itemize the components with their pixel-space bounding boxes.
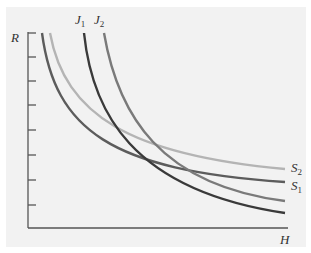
axes xyxy=(28,32,288,228)
y-axis-label: R xyxy=(10,30,19,45)
label-s1: S1 xyxy=(291,178,302,195)
curve-s2 xyxy=(50,33,285,169)
label-j2: J2 xyxy=(94,12,104,29)
label-j1: J1 xyxy=(75,12,85,29)
curve-j2 xyxy=(104,33,285,201)
curve-s1 xyxy=(42,33,285,182)
x-axis-label: H xyxy=(279,232,290,247)
label-s2: S2 xyxy=(291,160,302,177)
y-axis-ticks xyxy=(28,33,36,205)
indifference-curves-diagram: R H J1 J2 S2 S1 xyxy=(0,0,311,253)
curve-j1 xyxy=(84,33,285,213)
